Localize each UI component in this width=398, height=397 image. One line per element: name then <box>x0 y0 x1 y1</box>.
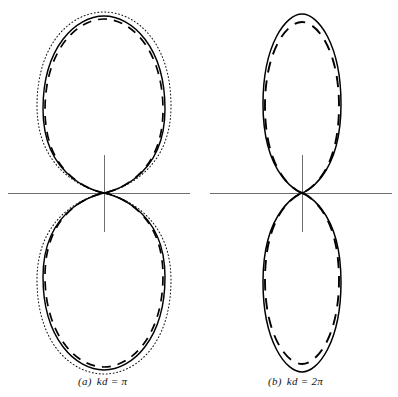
caption-panel-a-index: (a) <box>78 375 92 387</box>
caption-panel-a-expression: kd = π <box>97 375 128 387</box>
caption-panel-b-index: (b) <box>268 375 282 387</box>
radiation-pattern-figure: (a)kd = π (b)kd = 2π <box>0 0 398 397</box>
caption-panel-b-expression: kd = 2π <box>287 375 323 387</box>
panel-b <box>210 14 392 372</box>
caption-panel-a: (a)kd = π <box>78 375 127 387</box>
caption-panel-b: (b)kd = 2π <box>268 375 323 387</box>
figure-canvas <box>0 0 398 397</box>
panel-a <box>8 12 190 374</box>
